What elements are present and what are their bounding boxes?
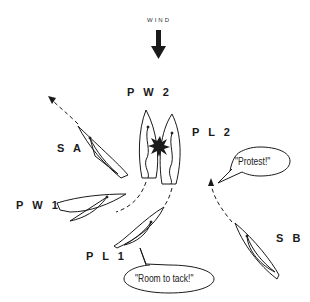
boat-sb-icon <box>235 223 279 279</box>
arrowhead-sb-icon <box>208 178 214 186</box>
label-sb: S B <box>276 232 303 244</box>
speech-text-room: "Room to tack!" <box>135 273 193 284</box>
wind-label: WIND <box>147 17 171 23</box>
boat-pw1-icon <box>57 194 126 221</box>
boat-pl1-icon <box>114 207 164 248</box>
label-pl2: P L 2 <box>192 126 233 138</box>
collision-icon <box>148 136 170 157</box>
boat-sa-icon <box>78 126 128 178</box>
speech-text-protest: "Protest!" <box>235 156 270 167</box>
track-sa <box>52 100 78 124</box>
speech-bubble-room <box>124 248 214 293</box>
label-sa: S A <box>57 142 84 154</box>
sailing-diagram: WIND S A P W 2 P L 2 P W 1 P L 1 S B "Pr… <box>0 0 310 302</box>
label-pl1: P L 1 <box>86 250 127 262</box>
label-pw2: P W 2 <box>127 86 172 98</box>
track-sb <box>211 182 232 222</box>
diagram-svg <box>0 0 310 302</box>
label-pw1: P W 1 <box>16 199 61 211</box>
wind-arrow-icon <box>151 30 166 59</box>
track-pl2 <box>165 188 172 205</box>
